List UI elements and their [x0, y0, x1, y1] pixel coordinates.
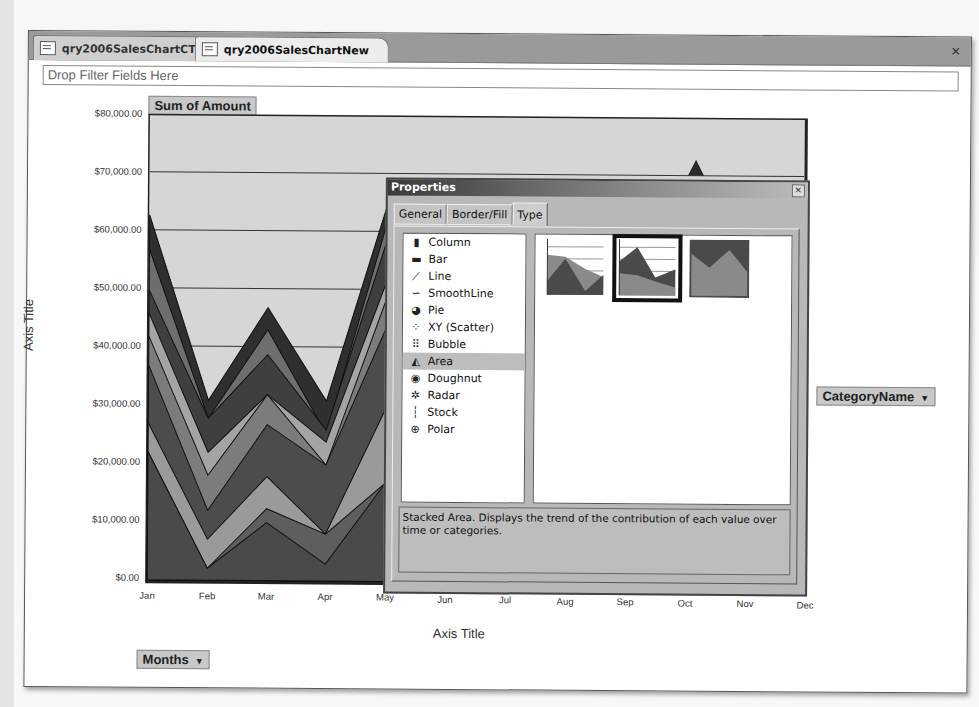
filter-drop-zone[interactable]: Drop Filter Fields Here — [43, 65, 959, 91]
bubble-chart-icon: ⠿ — [409, 338, 423, 351]
chart-type-radar[interactable]: ✲Radar — [402, 387, 524, 405]
tab-type[interactable]: Type — [512, 202, 547, 225]
properties-dialog: Properties ✕ General Border/Fill Type ▮C… — [383, 178, 810, 597]
subtype-100-stacked-area-thumbnail[interactable] — [689, 240, 749, 298]
tab-label: qry2006SalesChartNew — [224, 43, 369, 57]
chart-type-stock[interactable]: ┆Stock — [402, 404, 524, 422]
close-icon[interactable]: ✕ — [951, 44, 961, 58]
dropdown-arrow-icon: ▼ — [920, 393, 929, 403]
doughnut-chart-icon: ◉ — [409, 372, 423, 385]
polar-chart-icon: ⊕ — [408, 423, 422, 436]
document-tab-bar: qry2006SalesChartCT qry2006SalesChartNew… — [29, 31, 971, 67]
column-chart-icon: ▮ — [409, 236, 423, 249]
left-margin — [0, 0, 14, 707]
chart-type-area[interactable]: ◭Area — [403, 353, 525, 371]
radar-chart-icon: ✲ — [408, 389, 422, 402]
chart-subtype-gallery — [533, 234, 793, 506]
dropdown-arrow-icon: ▼ — [195, 656, 204, 666]
chart-type-doughnut[interactable]: ◉Doughnut — [403, 370, 525, 388]
dialog-tabs: General Border/Fill Type — [394, 204, 548, 226]
form-icon — [202, 42, 218, 56]
pivotchart-window: qry2006SalesChartCT qry2006SalesChartNew… — [23, 30, 972, 694]
x-axis-title[interactable]: Axis Title — [433, 626, 485, 641]
chart-type-line[interactable]: ⟋Line — [403, 268, 525, 286]
data-field-button[interactable]: Sum of Amount — [148, 96, 256, 116]
chart-type-list[interactable]: ▮Column ▬Bar ⟋Line ∽SmoothLine ◕Pie ⁘XY … — [401, 233, 527, 504]
series-field-button[interactable]: CategoryName▼ — [816, 387, 935, 407]
chart-type-polar[interactable]: ⊕Polar — [402, 421, 524, 439]
pie-chart-icon: ◕ — [409, 304, 423, 317]
area-chart-icon: ◭ — [409, 355, 423, 368]
dialog-title-bar[interactable]: Properties ✕ — [388, 180, 808, 199]
y-axis-title[interactable]: Axis Title — [21, 299, 36, 351]
subtype-area-thumbnail[interactable] — [545, 239, 605, 297]
category-field-button[interactable]: Months▼ — [137, 650, 210, 670]
tab-qry2006SalesChartCT[interactable]: qry2006SalesChartCT — [33, 35, 209, 61]
close-icon[interactable]: ✕ — [792, 184, 805, 197]
tab-border-fill[interactable]: Border/Fill — [447, 204, 512, 225]
scatter-chart-icon: ⁘ — [409, 321, 423, 334]
type-tab-panel: ▮Column ▬Bar ⟋Line ∽SmoothLine ◕Pie ⁘XY … — [391, 226, 799, 585]
chart-type-description: Stacked Area. Displays the trend of the … — [398, 507, 790, 576]
chart-type-column[interactable]: ▮Column — [403, 234, 525, 252]
tab-label: qry2006SalesChartCT — [62, 42, 196, 56]
tab-general[interactable]: General — [394, 204, 448, 225]
chart-type-bar[interactable]: ▬Bar — [403, 251, 525, 269]
chart-type-bubble[interactable]: ⠿Bubble — [403, 336, 525, 354]
tab-qry2006SalesChartNew[interactable]: qry2006SalesChartNew — [195, 36, 389, 62]
bar-chart-icon: ▬ — [409, 253, 423, 266]
line-chart-icon: ⟋ — [409, 270, 423, 283]
stock-chart-icon: ┆ — [408, 406, 422, 419]
smoothline-chart-icon: ∽ — [409, 287, 423, 300]
pivotchart-icon — [40, 41, 56, 55]
chart-type-pie[interactable]: ◕Pie — [403, 302, 525, 320]
chart-type-smoothline[interactable]: ∽SmoothLine — [403, 285, 525, 303]
subtype-stacked-area-thumbnail[interactable] — [617, 239, 677, 297]
chart-type-scatter[interactable]: ⁘XY (Scatter) — [403, 319, 525, 337]
